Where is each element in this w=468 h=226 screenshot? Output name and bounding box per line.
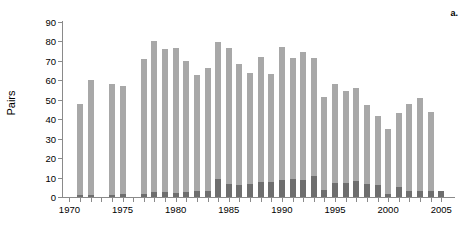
bar-total-pairs-1982 (194, 75, 200, 197)
y-axis-tick-label: 40 (4, 114, 56, 125)
x-axis-tick (271, 198, 272, 202)
x-axis-tick (378, 198, 379, 202)
bar-breeding-pairs-1983 (205, 191, 211, 197)
y-axis-tick (58, 197, 62, 198)
bar-breeding-pairs-2003 (417, 191, 423, 197)
bar-breeding-pairs-1989 (268, 182, 274, 197)
bar-breeding-pairs-1998 (364, 184, 370, 197)
x-axis-tick (208, 198, 209, 202)
bar-total-pairs-1974 (109, 84, 115, 197)
bar-total-pairs-1991 (290, 58, 296, 197)
x-axis-tick (335, 198, 336, 202)
x-axis-tick (441, 198, 442, 202)
x-axis-tick (197, 198, 198, 202)
bar-total-pairs-2002 (406, 104, 412, 197)
bar-total-pairs-2003 (417, 98, 423, 197)
bar-total-pairs-2004 (428, 112, 434, 197)
bar-total-pairs-1990 (279, 47, 285, 197)
x-axis-tick (69, 198, 70, 202)
bar-breeding-pairs-1984 (215, 179, 221, 197)
bar-breeding-pairs-1982 (194, 191, 200, 197)
y-axis-tick-label: 30 (4, 133, 56, 144)
bar-breeding-pairs-1997 (353, 181, 359, 197)
bar-breeding-pairs-1975 (120, 194, 126, 197)
y-axis-tick-label: 60 (4, 75, 56, 86)
bar-total-pairs-1981 (183, 61, 189, 197)
bar-total-pairs-1998 (364, 105, 370, 197)
x-axis-tick (229, 198, 230, 202)
y-axis-tick-label: 0 (4, 192, 56, 203)
y-axis-tick-label: 50 (4, 94, 56, 105)
x-axis-tick (261, 198, 262, 202)
x-axis-tick (186, 198, 187, 202)
bar-total-pairs-1989 (268, 74, 274, 197)
x-axis-tick (133, 198, 134, 202)
bar-total-pairs-1988 (258, 57, 264, 197)
x-axis-tick (431, 198, 432, 202)
bar-breeding-pairs-2005 (438, 191, 444, 197)
x-axis-tick (314, 198, 315, 202)
x-axis-tick-label: 2005 (431, 204, 452, 215)
bar-breeding-pairs-2000 (385, 194, 391, 197)
x-axis-tick (399, 198, 400, 202)
bar-total-pairs-1979 (162, 49, 168, 197)
x-axis-tick (420, 198, 421, 202)
x-axis-tick (367, 198, 368, 202)
x-axis-tick (154, 198, 155, 202)
bar-total-pairs-1995 (332, 84, 338, 197)
bar-total-pairs-1984 (215, 42, 221, 197)
x-axis-tick (346, 198, 347, 202)
bar-breeding-pairs-1996 (343, 183, 349, 197)
x-axis-tick (303, 198, 304, 202)
bar-breeding-pairs-1995 (332, 183, 338, 197)
x-axis-tick (123, 198, 124, 202)
bar-breeding-pairs-1986 (236, 185, 242, 197)
x-axis-tick (165, 198, 166, 202)
x-axis-tick (80, 198, 81, 202)
x-axis-tick (239, 198, 240, 202)
bar-breeding-pairs-1974 (109, 195, 115, 197)
bar-total-pairs-2001 (396, 113, 402, 197)
x-axis-tick (293, 198, 294, 202)
bar-breeding-pairs-1991 (290, 179, 296, 197)
x-axis-tick-label: 1985 (218, 204, 239, 215)
x-axis-tick (282, 198, 283, 202)
bar-total-pairs-1994 (321, 97, 327, 197)
y-axis-tick-label: 20 (4, 153, 56, 164)
y-axis-tick-label: 10 (4, 172, 56, 183)
x-axis-tick (218, 198, 219, 202)
bar-total-pairs-1980 (173, 48, 179, 197)
plot-area (62, 22, 454, 197)
bar-breeding-pairs-1972 (88, 195, 94, 197)
bar-total-pairs-1987 (247, 73, 253, 197)
bar-total-pairs-1978 (151, 41, 157, 197)
x-axis-tick-label: 1990 (271, 204, 292, 215)
y-axis-tick-label: 70 (4, 55, 56, 66)
bar-total-pairs-1992 (300, 52, 306, 197)
bar-breeding-pairs-1993 (311, 176, 317, 197)
bar-breeding-pairs-1978 (151, 192, 157, 197)
panel-label: a. (450, 8, 458, 18)
bar-breeding-pairs-1971 (77, 195, 83, 197)
x-axis-tick-label: 1995 (324, 204, 345, 215)
x-axis-tick-label: 1970 (59, 204, 80, 215)
x-axis-line (62, 197, 455, 198)
bar-total-pairs-1986 (236, 64, 242, 197)
x-axis-tick (388, 198, 389, 202)
x-axis-tick (356, 198, 357, 202)
bar-breeding-pairs-1981 (183, 192, 189, 197)
bar-total-pairs-1996 (343, 91, 349, 197)
bar-total-pairs-1977 (141, 59, 147, 197)
bar-total-pairs-1972 (88, 80, 94, 197)
bar-breeding-pairs-1985 (226, 184, 232, 197)
x-axis-tick (144, 198, 145, 202)
bar-breeding-pairs-1994 (321, 190, 327, 197)
y-axis-tick-label: 90 (4, 17, 56, 28)
bar-total-pairs-1971 (77, 104, 83, 197)
bar-breeding-pairs-2002 (406, 191, 412, 197)
x-axis-tick-label: 2000 (378, 204, 399, 215)
bar-total-pairs-1975 (120, 86, 126, 197)
bar-breeding-pairs-1999 (375, 185, 381, 197)
bar-breeding-pairs-2004 (428, 191, 434, 197)
bar-total-pairs-2000 (385, 129, 391, 197)
